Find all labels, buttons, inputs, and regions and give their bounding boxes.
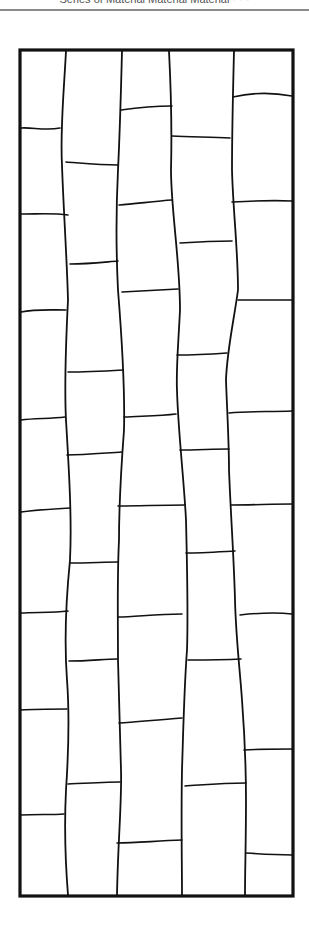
horizontal-cell-wall: [231, 504, 292, 505]
horizontal-cell-wall: [232, 201, 292, 202]
horizontal-cell-wall: [70, 261, 118, 264]
horizontal-cell-wall: [70, 562, 118, 563]
cell-walls: [21, 51, 292, 895]
horizontal-cell-wall: [21, 214, 68, 215]
diagram-frame: [20, 50, 293, 896]
horizontal-cell-wall: [21, 814, 64, 815]
horizontal-cell-wall: [180, 449, 229, 450]
horizontal-cell-wall: [240, 613, 292, 615]
horizontal-cell-wall: [118, 614, 182, 617]
horizontal-cell-wall: [244, 749, 292, 750]
horizontal-cell-wall: [21, 611, 68, 613]
vertical-cell-wall: [61, 51, 70, 895]
horizontal-cell-wall: [172, 136, 230, 138]
horizontal-cell-wall: [121, 106, 172, 110]
horizontal-cell-wall: [186, 551, 235, 553]
horizontal-cell-wall: [118, 505, 185, 506]
horizontal-cell-wall: [233, 93, 292, 97]
horizontal-cell-wall: [68, 370, 123, 372]
horizontal-cell-wall: [246, 853, 292, 855]
horizontal-cell-wall: [66, 162, 118, 165]
horizontal-cell-wall: [21, 417, 65, 420]
horizontal-cell-wall: [119, 200, 172, 205]
horizontal-cell-wall: [21, 508, 70, 512]
horizontal-cell-wall: [185, 783, 246, 786]
horizontal-cell-wall: [69, 659, 117, 661]
horizontal-cell-wall: [177, 353, 227, 355]
horizontal-cell-wall: [229, 411, 292, 413]
horizontal-cell-wall: [67, 452, 122, 455]
horizontal-cell-wall: [188, 659, 241, 660]
horizontal-cell-wall: [68, 782, 120, 784]
horizontal-cell-wall: [21, 310, 66, 312]
vertical-cell-wall: [117, 51, 125, 895]
horizontal-cell-wall: [119, 718, 182, 723]
horizontal-cell-wall: [21, 128, 60, 129]
horizontal-cell-wall: [124, 414, 176, 417]
horizontal-cell-wall: [180, 241, 232, 243]
cell-grid-diagram: [0, 0, 309, 941]
horizontal-cell-wall: [122, 289, 178, 292]
horizontal-cell-wall: [21, 709, 67, 710]
vertical-cell-wall: [226, 51, 246, 895]
horizontal-cell-wall: [117, 840, 182, 843]
vertical-cell-wall: [169, 51, 187, 895]
